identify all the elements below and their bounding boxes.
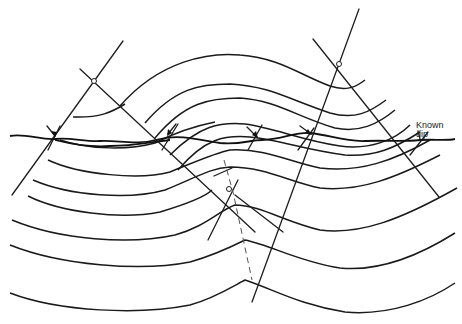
center-point-right (337, 62, 342, 67)
fold-construction-diagram (0, 0, 462, 324)
center-point-middle (227, 187, 232, 192)
dip-construction-lines (12, 9, 439, 302)
bedding-layers (10, 54, 457, 312)
section-trace (10, 133, 455, 144)
center-point-left (92, 79, 97, 84)
known-dip-label-line2: dip (416, 130, 444, 139)
known-dip-label: Known dip (416, 121, 444, 139)
